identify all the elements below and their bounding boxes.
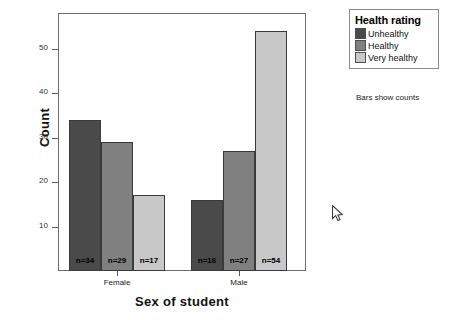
x-axis-title: Sex of student [58,294,306,309]
bar: n=16 [191,200,223,271]
bar: n=17 [133,195,165,271]
bar-count-label: n=17 [134,256,164,265]
legend-swatch [355,28,366,39]
x-axis-group: Female [69,271,165,293]
legend-item-label: Unhealthy [368,29,409,39]
bar: n=54 [255,31,287,271]
bar: n=34 [69,120,101,271]
x-axis-group-label: Male [230,278,247,287]
y-axis-tick-label: 40 [39,87,48,96]
legend: Health rating UnhealthyHealthyVery healt… [349,9,439,69]
legend-swatch [355,52,366,63]
y-axis-tick-label: 50 [39,43,48,52]
legend-item-label: Very healthy [368,53,418,63]
bar: n=27 [223,151,255,271]
bar-count-label: n=54 [256,256,286,265]
bar: n=29 [101,142,133,271]
y-axis-tick-label: 10 [39,221,48,230]
legend-item: Very healthy [355,52,433,63]
y-axis-tick-label: 20 [39,176,48,185]
legend-title: Health rating [355,14,433,26]
chart-footnote: Bars show counts [356,93,419,102]
legend-item-label: Healthy [368,41,399,51]
x-axis-group: Male [191,271,287,293]
legend-item: Healthy [355,40,433,51]
bar-chart: Count 1020304050 n=34n=29n=17n=16n=27n=5… [0,0,456,320]
x-axis-group-label: Female [104,278,131,287]
legend-items: UnhealthyHealthyVery healthy [355,28,433,63]
bar-count-label: n=29 [102,256,132,265]
x-axis-tick-mark [117,271,118,276]
y-axis-tick-label: 30 [39,132,48,141]
bar-count-label: n=27 [224,256,254,265]
legend-item: Unhealthy [355,28,433,39]
x-axis-tick-mark [239,271,240,276]
legend-swatch [355,40,366,51]
y-axis-title: Count [37,68,52,188]
mouse-pointer-icon [332,205,344,223]
bars-layer: n=34n=29n=17n=16n=27n=54 [58,13,306,271]
bar-count-label: n=16 [192,256,222,265]
bar-count-label: n=34 [70,256,100,265]
